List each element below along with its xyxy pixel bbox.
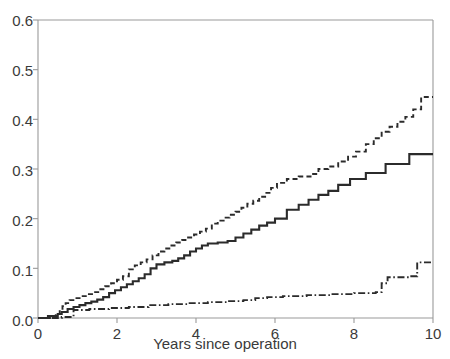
ytick-label-0.3: 0.3 — [0, 163, 33, 178]
x-axis-label: Years since operation — [0, 336, 450, 351]
ytick-label-0.6: 0.6 — [0, 13, 33, 28]
cumulative-incidence-chart: 0.6 0.5 0.4 0.3 0.2 0.1 0.0 0 2 4 6 8 10… — [0, 0, 450, 359]
plot-area — [0, 0, 450, 359]
ytick-label-0.4: 0.4 — [0, 113, 33, 128]
ytick-label-0.5: 0.5 — [0, 63, 33, 78]
chart-background — [0, 0, 450, 359]
ytick-label-0.1: 0.1 — [0, 263, 33, 278]
ytick-label-0.2: 0.2 — [0, 213, 33, 228]
